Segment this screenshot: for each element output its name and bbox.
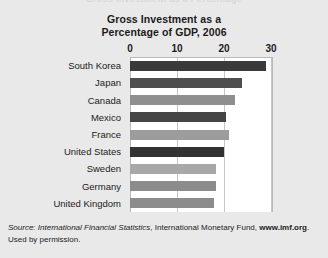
x-axis-tick-labels: 0102030 bbox=[0, 43, 328, 57]
top-bleed-text: Gross Investment as a Percentage bbox=[0, 0, 328, 4]
bar-united-states bbox=[130, 147, 224, 157]
chart-title: Gross Investment as a Percentage of GDP,… bbox=[0, 13, 328, 39]
bar-canada bbox=[130, 95, 235, 105]
source-publication: International Financial Statistics bbox=[38, 223, 151, 232]
category-label-japan: Japan bbox=[0, 77, 121, 88]
bar-france bbox=[130, 130, 229, 140]
bar-series bbox=[130, 57, 273, 212]
x-tick-20: 20 bbox=[209, 43, 239, 54]
bar-japan bbox=[130, 78, 242, 88]
x-tick-0: 0 bbox=[115, 43, 145, 54]
bar-germany bbox=[130, 181, 216, 191]
category-label-france: France bbox=[0, 129, 121, 140]
chart-figure: Gross Investment as a Percentage Gross I… bbox=[0, 0, 328, 258]
category-axis-labels: South KoreaJapanCanadaMexicoFranceUnited… bbox=[0, 57, 126, 212]
category-label-sweden: Sweden bbox=[0, 163, 121, 174]
bar-sweden bbox=[130, 164, 216, 174]
bar-united-kingdom bbox=[130, 198, 214, 208]
source-url: www.imf.org bbox=[259, 223, 307, 232]
bar-mexico bbox=[130, 112, 226, 122]
chart-title-line-2: Percentage of GDP, 2006 bbox=[0, 26, 328, 39]
source-label: Source: bbox=[8, 223, 36, 232]
category-label-canada: Canada bbox=[0, 95, 121, 106]
category-label-south-korea: South Korea bbox=[0, 60, 121, 71]
x-tick-10: 10 bbox=[162, 43, 192, 54]
chart-title-line-1: Gross Investment as a bbox=[0, 13, 328, 26]
category-label-mexico: Mexico bbox=[0, 112, 121, 123]
category-label-united-states: United States bbox=[0, 146, 121, 157]
source-note: Source: International Financial Statisti… bbox=[8, 222, 320, 245]
bar-south-korea bbox=[130, 61, 266, 71]
category-label-germany: Germany bbox=[0, 181, 121, 192]
x-tick-30: 30 bbox=[256, 43, 286, 54]
source-organization: , International Monetary Fund, bbox=[150, 223, 257, 232]
category-label-united-kingdom: United Kingdom bbox=[0, 198, 121, 209]
